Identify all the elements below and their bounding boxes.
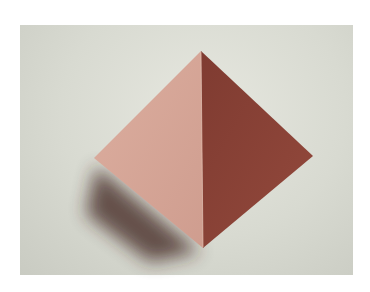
dark-face <box>201 51 313 248</box>
origami-pyramid-illustration <box>0 0 370 292</box>
